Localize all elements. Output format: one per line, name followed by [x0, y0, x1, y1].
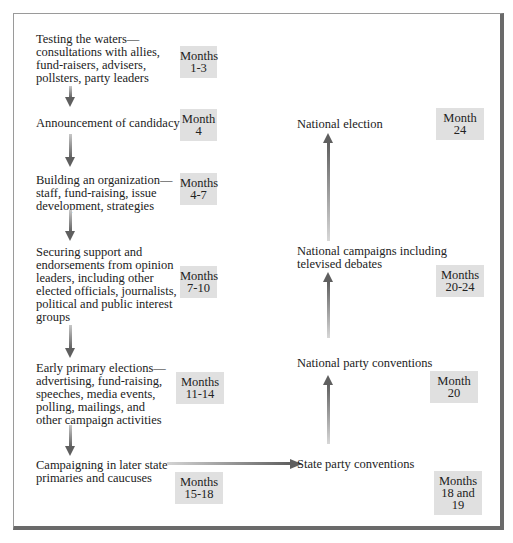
step-national-conventions: National party conventions	[297, 357, 432, 370]
step-early-primaries: Early primary elections— advertising, fu…	[36, 362, 166, 427]
step-later-primaries: Campaigning in later state primaries and…	[36, 459, 168, 485]
step-testing-waters: Testing the waters— consultations with a…	[36, 33, 160, 85]
time-badge: Months 15-18	[175, 472, 223, 504]
step-national-campaigns: National campaigns including televised d…	[297, 245, 447, 271]
time-badge: Months 11-14	[176, 372, 224, 404]
arrow-down-icon	[65, 97, 75, 107]
time-badge: Months 1-3	[180, 46, 217, 78]
arrow-shaft	[69, 425, 72, 447]
step-building-organization: Building an organization— staff, fund-ra…	[36, 174, 173, 213]
arrow-shaft	[69, 210, 72, 232]
arrow-shaft	[69, 134, 72, 158]
step-state-conventions: State party conventions	[297, 458, 414, 471]
time-badge: Months 7-10	[180, 266, 217, 298]
time-badge: Months 4-7	[180, 173, 217, 205]
time-badge: Months 20-24	[436, 265, 484, 297]
arrow-shaft	[327, 384, 330, 444]
time-badge: Month 20	[430, 371, 478, 403]
arrow-down-icon	[65, 348, 75, 358]
time-badge: Month 24	[436, 108, 484, 140]
step-announcement: Announcement of candidacy	[36, 117, 180, 130]
arrow-shaft	[327, 282, 330, 338]
step-national-election: National election	[297, 118, 383, 131]
arrow-up-icon	[323, 133, 333, 143]
arrow-down-icon	[65, 231, 75, 241]
arrow-down-icon	[65, 157, 75, 167]
step-securing-support: Securing support and endorsements from o…	[36, 246, 177, 324]
arrow-up-icon	[323, 375, 333, 385]
arrow-down-icon	[65, 446, 75, 456]
arrow-up-icon	[323, 272, 333, 282]
arrow-shaft	[167, 462, 291, 465]
time-badge: Months 18 and 19	[434, 471, 482, 515]
arrow-shaft	[69, 325, 72, 349]
arrow-shaft	[327, 143, 330, 241]
time-badge: Month 4	[180, 109, 217, 141]
